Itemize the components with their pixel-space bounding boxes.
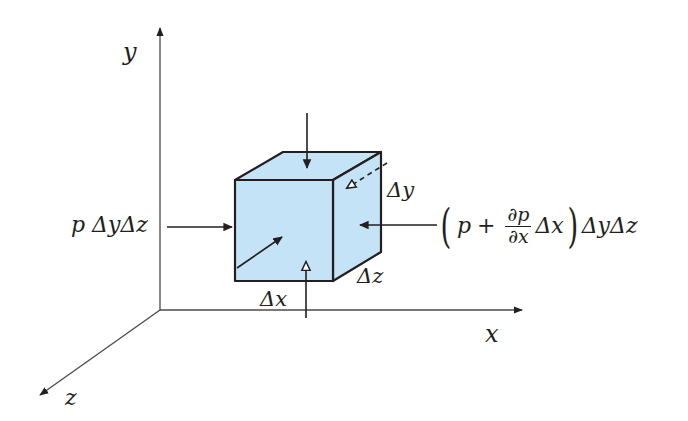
cube-front-face bbox=[235, 180, 333, 281]
pressure-symbol: p bbox=[457, 215, 471, 237]
pressure-symbol: p bbox=[71, 212, 85, 237]
delta-x-term: Δx bbox=[535, 215, 563, 237]
y-axis-label: y bbox=[123, 40, 137, 64]
left-force-label: p ΔyΔz bbox=[71, 214, 148, 236]
area-term: ΔyΔz bbox=[582, 215, 638, 237]
z-axis-label: z bbox=[65, 387, 77, 409]
area-term: ΔyΔz bbox=[92, 212, 148, 237]
diagram-canvas: y x z Δx Δy Δz p ΔyΔz ( p + ∂p ∂x Δx ) Δ… bbox=[0, 0, 688, 421]
z-axis bbox=[40, 310, 160, 395]
right-force-label: ( p + ∂p ∂x Δx ) ΔyΔz bbox=[437, 186, 638, 266]
fraction-numerator: ∂p bbox=[505, 205, 531, 227]
close-paren: ) bbox=[567, 203, 578, 249]
open-paren: ( bbox=[441, 203, 452, 249]
partial-derivative-fraction: ∂p ∂x bbox=[505, 205, 531, 247]
fluid-element-cube bbox=[235, 152, 381, 281]
delta-y-label: Δy bbox=[387, 180, 414, 201]
delta-x-label: Δx bbox=[260, 289, 287, 310]
delta-z-label: Δz bbox=[357, 266, 383, 287]
fraction-denominator: ∂x bbox=[505, 227, 531, 247]
plus-sign: + bbox=[477, 215, 495, 237]
x-axis-label: x bbox=[485, 322, 499, 346]
